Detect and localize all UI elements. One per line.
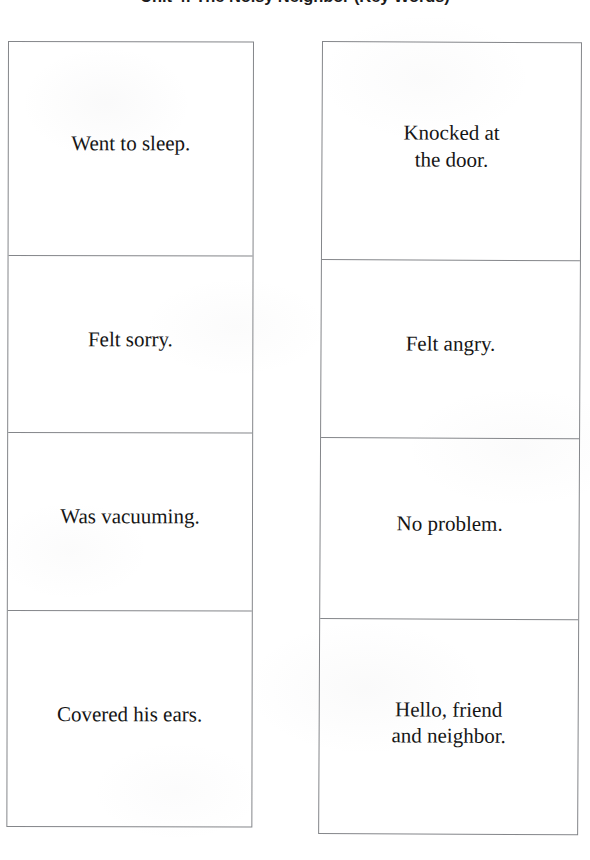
table-row[interactable]: Covered his ears. — [7, 611, 251, 829]
card-text-line-2: and neighbor. — [391, 722, 505, 749]
card-text: Knocked at the door. — [403, 119, 499, 172]
table-row[interactable]: Knocked at the door. — [322, 42, 581, 261]
card-text: Hello, friend and neighbor. — [391, 696, 506, 749]
card-text: Was vacuuming. — [60, 503, 200, 530]
card-text: Went to sleep. — [71, 130, 190, 157]
card-text-line-1: No problem. — [397, 510, 503, 537]
table-row[interactable]: Hello, friend and neighbor. — [319, 619, 578, 836]
left-card-column: Went to sleep. Felt sorry. Was vacuuming… — [6, 41, 254, 828]
table-row[interactable]: Felt angry. — [321, 260, 580, 439]
card-text: Felt angry. — [406, 331, 496, 358]
table-row[interactable]: Was vacuuming. — [8, 433, 252, 612]
page-title: Unit 4: The Noisy Neighbor (Key Words) — [0, 0, 590, 6]
card-text: Felt sorry. — [88, 326, 173, 353]
card-text-line-2: the door. — [403, 146, 499, 173]
table-row[interactable]: Felt sorry. — [8, 256, 252, 434]
card-text: Covered his ears. — [57, 701, 202, 728]
right-card-column: Knocked at the door. Felt angry. No prob… — [318, 41, 582, 835]
table-row[interactable]: No problem. — [320, 438, 579, 620]
card-text: No problem. — [397, 510, 503, 537]
card-text-line-1: Knocked at — [403, 119, 499, 146]
card-text-line-1: Felt angry. — [406, 331, 496, 358]
table-row[interactable]: Went to sleep. — [9, 42, 253, 257]
card-text-line-1: Hello, friend — [392, 696, 506, 723]
